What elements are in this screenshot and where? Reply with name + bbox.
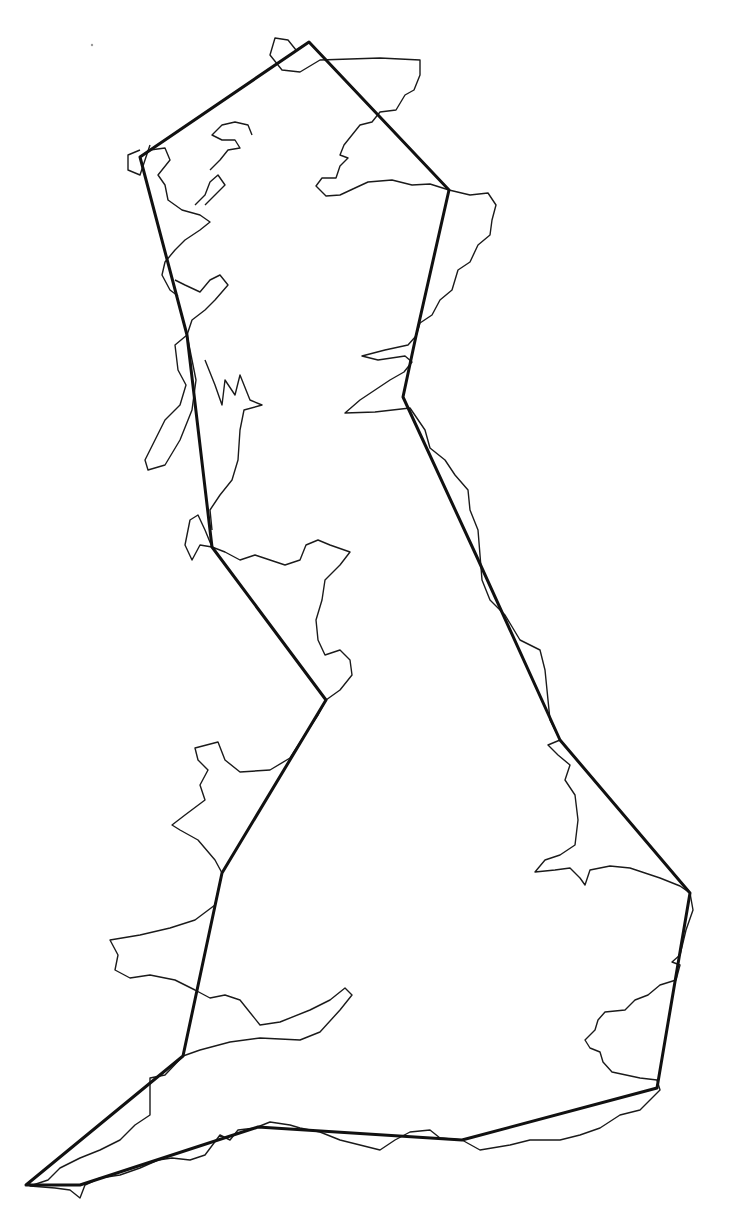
britain-map bbox=[0, 0, 732, 1232]
simplified-polygon-outline bbox=[26, 42, 690, 1185]
coastline-segment bbox=[30, 38, 693, 1198]
coastline-segment bbox=[195, 122, 252, 205]
coastline bbox=[30, 38, 693, 1198]
coastline-segment bbox=[205, 360, 262, 530]
coastline-segment bbox=[175, 275, 228, 335]
stray-dot-marker bbox=[91, 44, 93, 46]
coastline-segment bbox=[140, 148, 210, 296]
coastline-segment bbox=[128, 145, 150, 175]
